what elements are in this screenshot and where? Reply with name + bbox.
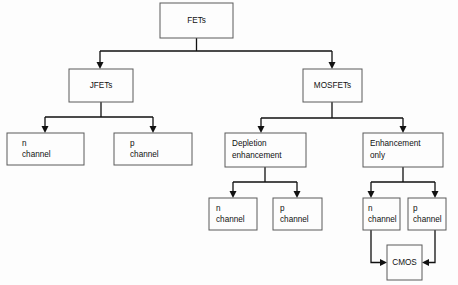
node-layer: FETs JFETs MOSFETs n channel p xyxy=(7,3,446,280)
node-cmos[interactable]: CMOS xyxy=(387,245,422,280)
diagram-canvas: FETs JFETs MOSFETs n channel p xyxy=(0,0,458,285)
arrow-head-depletion-n-channel xyxy=(230,191,237,198)
arrow-head-cmos-left xyxy=(380,259,387,266)
edge-fets-to-children xyxy=(100,38,332,62)
node-jfets[interactable]: JFETs xyxy=(69,69,133,102)
node-enhancement-p-channel-label-line-1: p xyxy=(413,204,418,213)
arrow-head-enhancement-n-channel xyxy=(368,191,375,198)
node-jfet-n-channel-label-line-2: channel xyxy=(22,150,51,159)
arrow-head-depletion xyxy=(258,126,265,133)
node-jfets-label: JFETs xyxy=(90,81,113,90)
edge-jfets-to-children xyxy=(45,102,153,126)
arrow-head-jfet-n-channel xyxy=(42,126,49,133)
node-depletion-p-channel-label-line-2: channel xyxy=(280,215,309,224)
node-depletion-p-channel[interactable]: p channel xyxy=(273,198,322,230)
fet-classification-diagram: FETs JFETs MOSFETs n channel p xyxy=(0,0,458,285)
node-depletion-n-channel[interactable]: n channel xyxy=(209,198,257,230)
node-enhancement-only[interactable]: Enhancement only xyxy=(363,133,443,167)
arrow-head-enhancement-p-channel xyxy=(432,191,439,198)
arrow-head-enhancement xyxy=(400,126,407,133)
node-enhancement-only-label-line-2: only xyxy=(370,151,386,160)
edge-n-channel-to-cmos xyxy=(371,230,380,263)
node-depletion-enhancement-label-line-2: enhancement xyxy=(232,151,282,160)
node-mosfets-label: MOSFETs xyxy=(314,81,351,90)
node-jfet-p-channel-label-line-2: channel xyxy=(130,150,159,159)
edge-p-channel-to-cmos xyxy=(429,230,435,263)
arrow-head-cmos-right xyxy=(422,259,429,266)
node-enhancement-n-channel[interactable]: n channel xyxy=(363,198,400,230)
edge-depletion-to-children xyxy=(233,167,297,191)
node-depletion-enhancement-label-line-1: Depletion xyxy=(232,139,267,148)
node-enhancement-p-channel-label-line-2: channel xyxy=(413,215,442,224)
node-fets[interactable]: FETs xyxy=(160,3,233,38)
edge-enhancement-to-children xyxy=(371,167,435,191)
arrow-head-mosfets xyxy=(329,62,336,69)
node-depletion-p-channel-label-line-1: p xyxy=(280,204,285,213)
node-cmos-label: CMOS xyxy=(392,258,417,267)
node-enhancement-n-channel-label-line-1: n xyxy=(368,204,373,213)
node-jfet-p-channel-label-line-1: p xyxy=(130,139,135,148)
node-jfet-n-channel[interactable]: n channel xyxy=(7,133,84,165)
node-enhancement-p-channel[interactable]: p channel xyxy=(408,198,446,230)
node-depletion-n-channel-label-line-1: n xyxy=(216,204,221,213)
node-jfet-n-channel-label-line-1: n xyxy=(22,139,27,148)
node-jfet-p-channel[interactable]: p channel xyxy=(114,133,192,165)
node-mosfets[interactable]: MOSFETs xyxy=(303,69,362,102)
node-depletion-enhancement[interactable]: Depletion enhancement xyxy=(225,133,306,167)
edge-mosfets-to-children xyxy=(261,102,403,126)
arrow-head-jfets xyxy=(97,62,104,69)
node-fets-label: FETs xyxy=(187,16,206,25)
node-enhancement-n-channel-label-line-2: channel xyxy=(368,215,397,224)
node-enhancement-only-label-line-1: Enhancement xyxy=(370,139,421,148)
arrow-head-jfet-p-channel xyxy=(150,126,157,133)
arrow-head-depletion-p-channel xyxy=(294,191,301,198)
node-depletion-n-channel-label-line-2: channel xyxy=(216,215,245,224)
